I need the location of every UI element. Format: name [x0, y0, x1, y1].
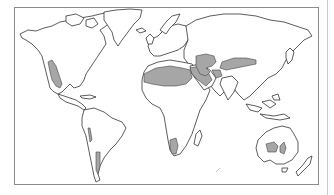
british-isles: [146, 34, 154, 44]
indian-subcontinent: [220, 76, 238, 100]
new-zealand: [296, 156, 312, 176]
desert-patagonia: [96, 152, 100, 174]
world-map: [0, 0, 334, 195]
greenland: [104, 9, 142, 46]
tasmania: [282, 168, 288, 172]
japan: [286, 48, 294, 64]
south-america: [82, 108, 126, 182]
continents: [20, 9, 312, 182]
desert-kalahari: [170, 138, 178, 154]
southeast-asia-islands: [246, 94, 290, 120]
iceland: [136, 28, 146, 33]
stray-mark: [216, 168, 220, 172]
madagascar: [194, 130, 202, 146]
caribbean-islands: [80, 95, 96, 99]
